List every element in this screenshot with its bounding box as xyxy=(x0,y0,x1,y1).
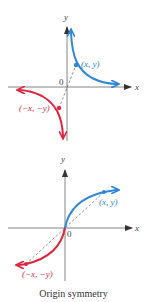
origin-symmetry-figure: x y 0 (x, y) (−x, −y) x y 0 (x, y) (−x, … xyxy=(0,0,147,302)
red-curve xyxy=(18,90,63,136)
blue-curve xyxy=(65,190,118,228)
point-neg-x-neg-y xyxy=(57,106,61,110)
x-axis-label: x xyxy=(134,223,139,233)
red-curve xyxy=(17,228,65,265)
y-axis-label: y xyxy=(63,12,68,22)
y-axis-label: y xyxy=(60,154,65,164)
origin-label: 0 xyxy=(59,77,64,87)
graph-2: x y 0 (x, y) (−x, −y) xyxy=(8,154,139,281)
point-label: (x, y) xyxy=(99,197,117,207)
point-neg-x-neg-y xyxy=(24,262,28,266)
blue-curve xyxy=(71,32,118,84)
point-x-y xyxy=(74,63,78,67)
reflected-point-label: (−x, −y) xyxy=(19,103,50,113)
x-axis-label: x xyxy=(134,82,139,92)
point-label: (x, y) xyxy=(81,59,99,69)
figure-caption: Origin symmetry xyxy=(0,288,147,299)
origin-label: 0 xyxy=(67,229,72,239)
point-x-y xyxy=(102,190,106,194)
graph-1: x y 0 (x, y) (−x, −y) xyxy=(8,12,139,141)
reflected-point-label: (−x, −y) xyxy=(22,269,53,279)
